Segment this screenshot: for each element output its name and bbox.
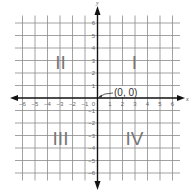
x-tick-label: 3 [133, 101, 137, 107]
x-tick-label: 2 [121, 101, 125, 107]
x-tick-label: −1 [82, 101, 90, 107]
x-tick-label: −6 [19, 101, 27, 107]
quadrant-3-label: III [53, 128, 69, 149]
y-tick-label: −2 [88, 120, 96, 126]
x-axis-left-arrow-icon [10, 95, 18, 101]
x-tick-label: 0 [92, 101, 96, 107]
coordinate-plane: x y −6−5−4−3−2−10123456 123456−1−2−3−4−5… [0, 0, 195, 196]
quadrant-4-label: IV [126, 128, 144, 149]
x-tick-label: 1 [108, 101, 112, 107]
quadrant-1-label: I [132, 52, 137, 73]
origin-annotation: (0, 0) [99, 86, 147, 98]
x-tick-label: −2 [69, 101, 77, 107]
x-tick-label: 5 [158, 101, 162, 107]
quadrant-2-label: II [55, 52, 66, 73]
y-axis-label: y [95, 0, 99, 6]
x-tick-label: −5 [32, 101, 40, 107]
y-tick-label: −1 [88, 108, 96, 114]
y-tick-label: −3 [88, 133, 96, 139]
origin-label: (0, 0) [114, 87, 137, 98]
y-tick-label: −6 [88, 170, 96, 176]
y-tick-label: −4 [88, 145, 96, 151]
y-tick-label: −5 [88, 158, 96, 164]
x-tick-label: 6 [171, 101, 175, 107]
y-axis-up-arrow-icon [95, 6, 101, 15]
x-axis-right-arrow-icon [177, 95, 185, 101]
x-tick-label: 4 [146, 101, 150, 107]
y-axis-down-arrow-icon [95, 181, 101, 190]
x-axis-label: x [185, 96, 189, 102]
x-tick-label: −3 [57, 101, 65, 107]
x-tick-label: −4 [44, 101, 52, 107]
